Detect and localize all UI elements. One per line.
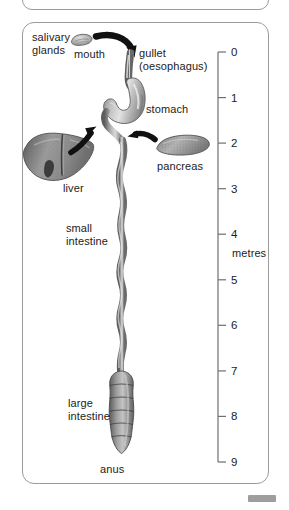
label-gullet-oesophagus: gullet (oesophagus) xyxy=(139,47,207,73)
label-pancreas: pancreas xyxy=(157,160,203,173)
scale-tick-2: 2 xyxy=(231,137,237,149)
label-stomach: stomach xyxy=(146,103,188,116)
salivary-gland-shape xyxy=(71,34,92,45)
label-mouth: mouth xyxy=(74,48,105,61)
scale-tick-8: 8 xyxy=(231,410,237,422)
scale-tick-7: 7 xyxy=(231,365,237,377)
stomach-shape xyxy=(104,78,145,124)
scale-tick-9: 9 xyxy=(231,456,237,468)
scale-tick-6: 6 xyxy=(231,319,237,331)
label-small-intestine: small intestine xyxy=(66,222,108,248)
scale-tick-1: 1 xyxy=(231,92,237,104)
large-intestine-shape xyxy=(109,371,134,454)
label-large-intestine: large intestine xyxy=(68,397,110,423)
scroll-indicator-chip[interactable] xyxy=(248,495,276,502)
scale-tick-4: 4 xyxy=(231,228,237,240)
scale-tick-0: 0 xyxy=(231,46,237,58)
label-metres: metres xyxy=(232,247,266,260)
label-salivary-glands: salivary glands xyxy=(32,31,70,57)
label-liver: liver xyxy=(63,182,84,195)
pancreas-arrow xyxy=(128,130,156,139)
scale-tick-5: 5 xyxy=(231,274,237,286)
label-anus: anus xyxy=(100,463,124,476)
length-scale xyxy=(218,52,226,462)
digestive-system-diagram: salivary glands mouth gullet (oesophagus… xyxy=(0,0,289,510)
small-intestine-shape xyxy=(118,140,124,371)
scale-tick-3: 3 xyxy=(231,183,237,195)
pancreas-shape xyxy=(157,135,210,155)
